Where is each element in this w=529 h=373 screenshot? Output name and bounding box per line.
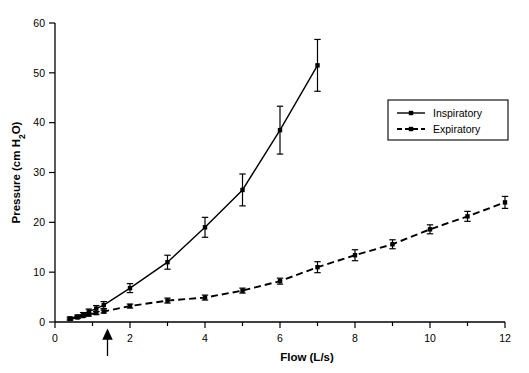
data-point-marker: [165, 260, 169, 264]
y-tick-label: 0: [39, 316, 45, 328]
data-point-marker: [240, 288, 244, 292]
legend-label-inspiratory: Inspiratory: [433, 107, 483, 119]
chart-canvas: 0102030405060024681012Flow (L/s)Pressure…: [0, 0, 529, 373]
y-tick-label: 40: [33, 116, 45, 128]
data-point-marker: [87, 312, 91, 316]
y-axis-title-text: Pressure (cm H2O): [10, 121, 27, 223]
data-point-marker: [128, 304, 132, 308]
data-point-marker: [94, 311, 98, 315]
data-point-marker: [165, 298, 169, 302]
y-tick-label: 60: [33, 17, 45, 29]
legend-marker-expiratory: [409, 127, 413, 131]
data-point-marker: [428, 227, 432, 231]
x-tick-label: 12: [499, 332, 511, 344]
data-point-marker: [465, 214, 469, 218]
x-tick-label: 10: [424, 332, 436, 344]
x-tick-label: 8: [352, 332, 358, 344]
pressure-flow-chart: 0102030405060024681012Flow (L/s)Pressure…: [0, 0, 529, 373]
data-point-marker: [102, 309, 106, 313]
data-point-marker: [75, 315, 79, 319]
data-point-marker: [102, 303, 106, 307]
data-point-marker: [278, 128, 282, 132]
data-point-marker: [94, 306, 98, 310]
x-tick-label: 0: [52, 332, 58, 344]
data-point-marker: [353, 253, 357, 257]
data-point-marker: [81, 314, 85, 318]
legend-label-expiratory: Expiratory: [433, 123, 481, 135]
x-tick-label: 2: [127, 332, 133, 344]
y-tick-label: 30: [33, 166, 45, 178]
x-tick-label: 4: [202, 332, 208, 344]
arrow-head: [103, 330, 111, 339]
y-tick-label: 50: [33, 67, 45, 79]
data-point-marker: [240, 188, 244, 192]
data-point-marker: [203, 295, 207, 299]
series-line-expiratory: [70, 202, 505, 319]
legend-marker-inspiratory: [409, 111, 413, 115]
chart-legend: InspiratoryExpiratory: [388, 100, 508, 140]
y-tick-label: 10: [33, 266, 45, 278]
y-tick-label: 20: [33, 216, 45, 228]
data-point-marker: [315, 63, 319, 67]
data-point-marker: [315, 265, 319, 269]
y-axis-title: Pressure (cm H2O): [10, 121, 27, 223]
data-point-marker: [390, 242, 394, 246]
data-point-marker: [203, 225, 207, 229]
data-point-marker: [128, 286, 132, 290]
data-point-marker: [503, 200, 507, 204]
data-point-marker: [278, 279, 282, 283]
x-tick-label: 6: [277, 332, 283, 344]
x-axis-title: Flow (L/s): [280, 351, 334, 363]
data-point-marker: [68, 317, 72, 321]
flow-marker-arrow: [103, 330, 111, 356]
